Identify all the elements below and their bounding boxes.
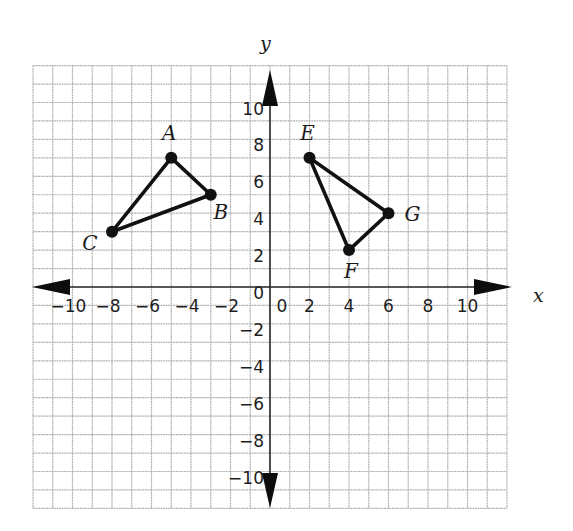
y-tick-label: 8	[253, 135, 264, 155]
up-arrow-icon	[262, 70, 278, 106]
x-axis-title: x	[533, 284, 544, 306]
triangles: ABCEFG	[82, 121, 420, 283]
y-axis-title: y	[259, 32, 271, 54]
x-tick-label: 10	[457, 296, 479, 316]
tick-labels: −10−8−6−4−202468101086420−2−4−6−8−10	[51, 99, 479, 488]
x-tick-label: −2	[214, 296, 239, 316]
left-arrow-icon	[32, 279, 70, 295]
vertex-label-e: E	[299, 121, 315, 145]
vertex-label-a: A	[160, 121, 176, 145]
x-tick-label: 2	[304, 296, 315, 316]
vertex-label-g: G	[405, 202, 421, 226]
x-tick-label: 6	[383, 296, 394, 316]
vertex-a	[165, 152, 177, 164]
coordinate-plane: −10−8−6−4−202468101086420−2−4−6−8−10 ABC…	[0, 0, 573, 531]
y-tick-label: 0	[253, 283, 264, 303]
x-tick-label: 4	[344, 296, 355, 316]
x-tick-label: −8	[95, 296, 120, 316]
x-tick-label: 0	[277, 296, 288, 316]
x-tick-label: −6	[135, 296, 160, 316]
vertex-e	[304, 152, 316, 164]
y-tick-label: −2	[239, 320, 264, 340]
y-tick-label: −8	[239, 431, 264, 451]
x-tick-label: −10	[51, 296, 87, 316]
axes	[32, 70, 512, 508]
y-tick-label: −4	[239, 357, 264, 377]
y-tick-label: 10	[242, 99, 264, 119]
x-tick-label: 8	[423, 296, 434, 316]
y-tick-label: −10	[228, 468, 264, 488]
vertex-label-f: F	[343, 259, 359, 283]
vertex-label-c: C	[82, 231, 97, 255]
y-tick-label: 6	[253, 172, 264, 192]
vertex-f	[343, 244, 355, 256]
y-tick-label: 2	[253, 246, 264, 266]
vertex-c	[106, 226, 118, 238]
y-tick-label: −6	[239, 394, 264, 414]
vertex-label-b: B	[212, 200, 228, 224]
x-tick-label: −4	[174, 296, 199, 316]
right-arrow-icon	[474, 279, 512, 295]
y-tick-label: 4	[253, 209, 264, 229]
vertex-g	[383, 207, 395, 219]
